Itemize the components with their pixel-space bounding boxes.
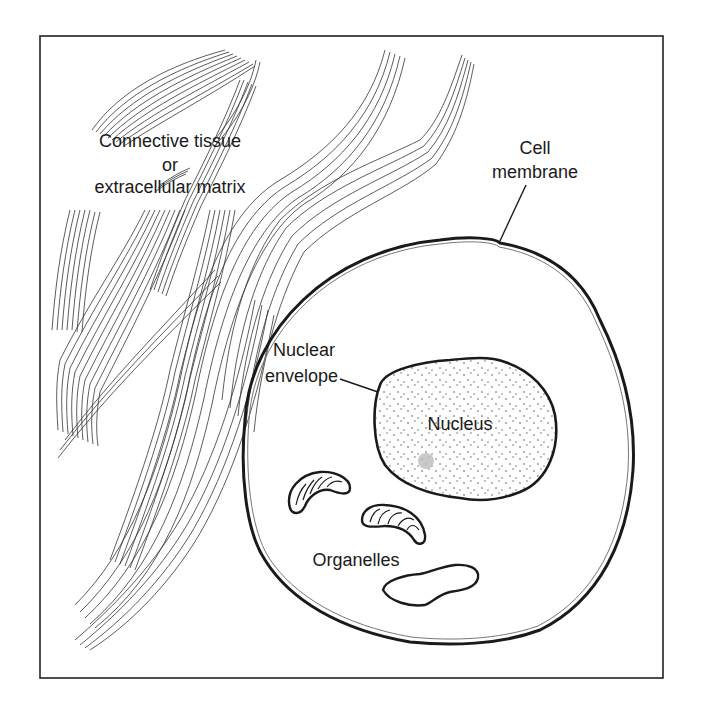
mitochondrion-1 <box>289 472 350 513</box>
connective-tissue-label-line1: Connective tissue <box>70 131 270 151</box>
cell-membrane-label-line2: membrane <box>490 162 580 182</box>
nucleus-label: Nucleus <box>420 414 500 434</box>
cell-membrane-leader <box>499 185 526 243</box>
connective-tissue-label-line3: extracellular matrix <box>70 177 270 197</box>
nuclear-envelope-label: Nuclear envelope <box>265 340 349 386</box>
nucleolus <box>418 453 434 469</box>
nuclear-envelope-label-line2: envelope <box>265 366 349 386</box>
cell-membrane-label-line1: Cell <box>490 138 580 158</box>
cell-diagram <box>0 0 704 715</box>
connective-tissue-label-line2: or <box>70 155 270 175</box>
cell-membrane-label: Cell membrane <box>490 138 580 182</box>
vesicle <box>383 565 478 606</box>
organelles-label: Organelles <box>296 550 416 570</box>
mitochondrion-2 <box>362 505 425 544</box>
fiber-bundle-c <box>52 210 100 332</box>
connective-tissue-label: Connective tissue or extracellular matri… <box>70 131 270 197</box>
nuclear-envelope-label-line1: Nuclear <box>265 340 349 360</box>
